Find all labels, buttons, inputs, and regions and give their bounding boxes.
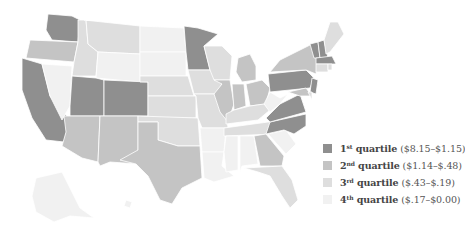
state-ct — [316, 64, 328, 72]
state-ak — [32, 172, 94, 222]
state-me — [324, 22, 344, 54]
quartile-legend: 1st quartile ($8.15–$1.15) 2nd quartile … — [323, 140, 465, 208]
state-ny — [270, 44, 318, 74]
legend-item-q4: 4th quartile ($.17–$0.00) — [323, 191, 465, 208]
state-pa — [268, 70, 314, 92]
state-or — [26, 40, 78, 62]
state-wa — [46, 14, 80, 42]
state-nd — [140, 26, 186, 52]
state-mi — [236, 54, 256, 82]
state-hi — [124, 200, 132, 208]
state-co — [104, 80, 148, 116]
swatch-q3 — [323, 178, 332, 187]
state-az — [62, 116, 100, 162]
legend-label-q4: 4th quartile ($.17–$0.00) — [340, 194, 460, 205]
state-sd — [140, 52, 186, 76]
legend-label-q3: 3rd quartile ($.43–$.19) — [340, 177, 455, 188]
state-ne — [140, 76, 194, 96]
legend-label-q1: 1st quartile ($8.15–$1.15) — [340, 143, 465, 154]
state-fl — [244, 166, 298, 208]
state-wy — [96, 52, 140, 82]
state-in — [232, 84, 246, 110]
legend-item-q2: 2nd quartile ($1.14–$.48) — [323, 157, 465, 174]
legend-item-q3: 3rd quartile ($.43–$.19) — [323, 174, 465, 191]
state-ut — [70, 76, 104, 116]
state-ri — [328, 64, 332, 70]
swatch-q4 — [323, 195, 332, 204]
swatch-q2 — [323, 161, 332, 170]
state-ar — [200, 128, 226, 152]
swatch-q1 — [323, 144, 332, 153]
state-ms — [224, 136, 238, 172]
legend-label-q2: 2nd quartile ($1.14–$.48) — [340, 160, 462, 171]
legend-item-q1: 1st quartile ($8.15–$1.15) — [323, 140, 465, 157]
state-ks — [148, 96, 196, 118]
